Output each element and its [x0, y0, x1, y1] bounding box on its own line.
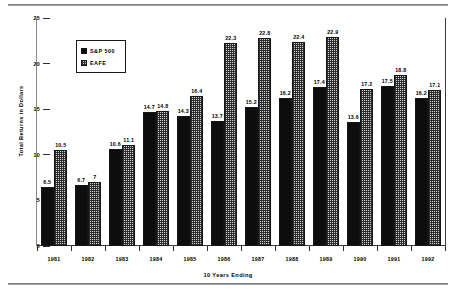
bar-sp500 [313, 87, 326, 246]
bar-eafe [258, 38, 271, 246]
x-axis-tick-mark [411, 246, 412, 251]
bar-sp500 [41, 187, 54, 246]
bottom-divider-rule [8, 283, 448, 285]
x-axis-tick-mark [377, 246, 378, 251]
bar-sp500 [177, 116, 190, 246]
legend-label-sp500: S&P 500 [90, 48, 115, 54]
y-axis-tick-label: 10 [34, 151, 41, 159]
y-axis-tick-label: 20 [34, 60, 41, 68]
y-axis-tick: 15 [14, 105, 50, 113]
bar-eafe [156, 111, 169, 246]
bar-value-label: 16.4 [182, 88, 212, 94]
chart-legend: S&P 500 EAFE [76, 40, 126, 73]
y-axis-line [36, 18, 37, 246]
x-axis-tick-mark [173, 246, 174, 251]
x-axis-tick-mark [37, 246, 38, 251]
y-axis-tick-mark [43, 154, 50, 155]
bar-eafe [360, 89, 373, 246]
x-axis-tick-mark [105, 246, 106, 251]
x-axis-tick-mark [241, 246, 242, 251]
bar-eafe [54, 150, 67, 246]
bar-chart-figure: Total Returns in Dollars 10 Years Ending… [0, 14, 456, 262]
bar-value-label: 18.8 [386, 67, 416, 73]
bar-sp500 [347, 122, 360, 246]
x-axis-title: 10 Years Ending [0, 272, 456, 278]
x-axis-tick-mark [71, 246, 72, 251]
bar-sp500 [75, 185, 88, 246]
x-axis-tick-mark [275, 246, 276, 251]
legend-item-sp500: S&P 500 [81, 45, 125, 57]
y-axis-tick-label: 25 [34, 14, 41, 22]
y-axis-title: Total Returns in Dollars [18, 51, 24, 191]
x-axis-tick-mark [309, 246, 310, 251]
bar-eafe [428, 90, 441, 246]
x-axis-tick-mark [139, 246, 140, 251]
bar-sp500 [279, 98, 292, 246]
bar-eafe [394, 75, 407, 246]
y-axis-tick: 10 [14, 151, 50, 159]
x-axis-tick-mark [343, 246, 344, 251]
y-axis-tick-label: 5 [37, 196, 40, 204]
y-axis-tick-mark [43, 63, 50, 64]
legend-label-eafe: EAFE [90, 60, 106, 66]
bar-eafe [224, 43, 237, 246]
bar-value-label: 17.1 [420, 82, 450, 88]
y-axis-tick: 20 [14, 60, 50, 68]
bar-value-label: 22.3 [216, 35, 246, 41]
bar-eafe [326, 37, 339, 246]
x-axis-tick-label: 1992 [408, 256, 448, 262]
bar-value-label: 22.9 [318, 29, 348, 35]
x-axis-tick-mark [207, 246, 208, 251]
bar-sp500 [109, 149, 122, 246]
y-axis-tick-label: 15 [34, 105, 41, 113]
y-axis-tick: 25 [14, 14, 50, 22]
bar-value-label: 22.4 [284, 34, 314, 40]
legend-swatch-eafe-icon [81, 60, 87, 66]
bar-value-label: 7 [80, 174, 110, 180]
x-axis-tick-mark [445, 246, 446, 251]
y-axis-tick-mark [43, 109, 50, 110]
bar-value-label: 11.1 [114, 137, 144, 143]
bar-eafe [88, 182, 101, 246]
bar-sp500 [381, 86, 394, 246]
bar-sp500 [245, 107, 258, 246]
legend-item-eafe: EAFE [81, 57, 125, 69]
bar-sp500 [211, 121, 224, 246]
legend-swatch-sp500-icon [81, 48, 87, 54]
bar-sp500 [415, 98, 428, 246]
bar-sp500 [143, 112, 156, 246]
y-axis-tick-mark [43, 18, 50, 19]
bar-value-label: 10.5 [46, 142, 76, 148]
top-divider-rule [8, 4, 448, 6]
bar-eafe [122, 145, 135, 246]
bar-value-label: 22.8 [250, 30, 280, 36]
bar-eafe [292, 42, 305, 246]
